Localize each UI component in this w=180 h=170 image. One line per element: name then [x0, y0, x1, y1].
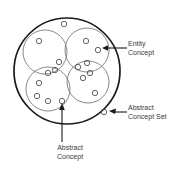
label-entity-concept: Entity Concept	[128, 40, 154, 57]
entity-concept-tr-2	[95, 47, 100, 52]
concept-set-diagram	[0, 0, 180, 170]
entity-concept-mid-7	[80, 75, 85, 80]
entity-concept-tr-1	[83, 38, 88, 43]
arrow-abstract-concept-set-head	[109, 108, 116, 114]
entity-concept-outer-top	[61, 21, 66, 26]
diagram-canvas: Entity Concept Abstract Concept Set Abst…	[0, 0, 180, 170]
label-abstract-concept-line-1: Abstract	[57, 144, 83, 153]
entity-concept-bl-3	[45, 98, 50, 103]
label-abstract-concept: Abstract Concept	[57, 144, 83, 161]
entity-concept-bl-4	[59, 98, 64, 103]
label-abstract-concept-set: Abstract Concept Set	[128, 104, 167, 121]
abstract-concept-bottom-right	[67, 61, 109, 103]
label-entity-concept-line-2: Concept	[128, 49, 154, 58]
entity-concept-outer-right	[92, 90, 97, 95]
label-abstract-concept-set-line-2: Concept Set	[128, 113, 167, 122]
entity-concept-mid-4	[75, 64, 80, 69]
arrow-abstract-concept	[59, 103, 65, 142]
entity-concept-mid-6	[87, 70, 92, 75]
label-abstract-concept-line-2: Concept	[57, 153, 83, 162]
label-entity-concept-line-1: Entity	[128, 40, 154, 49]
label-abstract-concept-set-line-1: Abstract	[128, 104, 167, 113]
arrow-entity-concept-head	[102, 45, 108, 51]
entity-concept-bl-2	[34, 93, 39, 98]
entity-concept-mid-1	[56, 59, 61, 64]
arrow-abstract-concept-set	[109, 108, 127, 114]
entity-concept-tl-1	[36, 38, 41, 43]
entity-concept-bl-1	[36, 80, 41, 85]
outer-circle-abstract-concept-set	[14, 18, 120, 124]
